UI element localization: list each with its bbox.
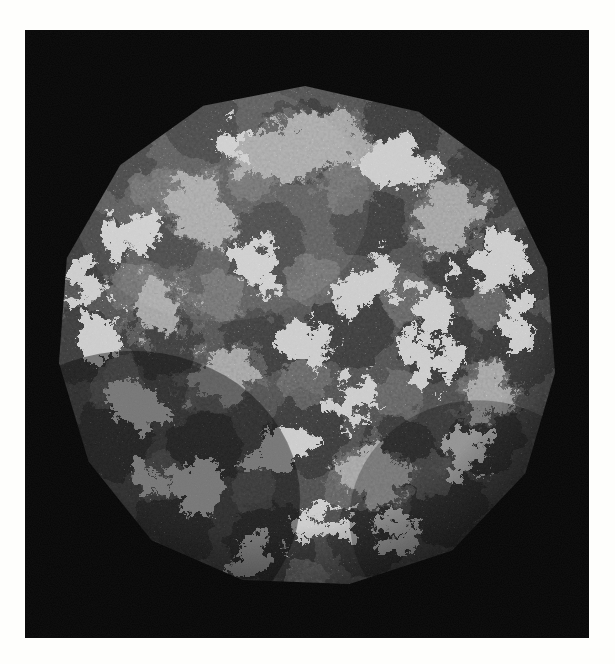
key-light-bloom bbox=[73, 84, 369, 321]
virus-capsid-particle bbox=[53, 83, 557, 587]
particle-wrap bbox=[26, 31, 588, 637]
figure-root: icosahedral virus capsid outer surface i… bbox=[0, 0, 615, 664]
capsid-body bbox=[53, 83, 557, 587]
micrograph-plate bbox=[26, 31, 588, 637]
